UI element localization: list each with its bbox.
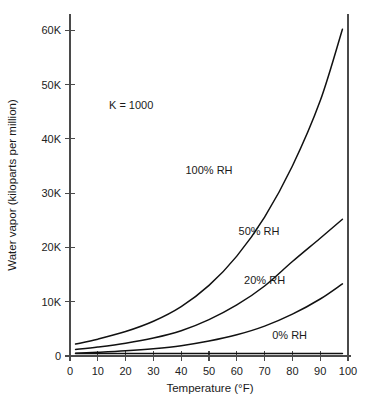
chart-annotations: K = 1000100% RH50% RH20% RH0% RH: [109, 99, 307, 341]
x-tick: 70: [258, 351, 270, 377]
y-tick-label: 40K: [41, 133, 61, 145]
x-tick-label: 50: [203, 365, 215, 377]
x-tick: 30: [147, 351, 159, 377]
x-tick-label: 60: [231, 365, 243, 377]
series-line-100-rh: [76, 29, 343, 344]
y-tick-label: 50K: [41, 79, 61, 91]
x-axis-ticks: 0102030405060708090100: [67, 351, 357, 377]
annotation-0-rh: 0% RH: [272, 329, 307, 341]
annotation-50-rh: 50% RH: [239, 225, 280, 237]
x-axis-title: Temperature (°F): [166, 382, 253, 394]
x-tick: 60: [231, 351, 243, 377]
x-tick-label: 100: [339, 365, 357, 377]
x-tick: 50: [203, 351, 215, 377]
chart-canvas: 010K20K30K40K50K60K 01020304050607080901…: [0, 0, 378, 403]
x-tick: 10: [92, 351, 104, 377]
x-tick-label: 0: [67, 365, 73, 377]
x-tick: 0: [67, 351, 73, 377]
x-tick-label: 90: [314, 365, 326, 377]
chart-figure: 010K20K30K40K50K60K 01020304050607080901…: [0, 0, 378, 403]
x-tick-label: 10: [92, 365, 104, 377]
x-tick: 20: [119, 351, 131, 377]
x-tick: 80: [286, 351, 298, 377]
series-lines: [76, 29, 343, 353]
y-tick-label: 0: [55, 350, 61, 362]
y-tick-label: 10K: [41, 296, 61, 308]
x-tick-label: 20: [119, 365, 131, 377]
x-tick-label: 80: [286, 365, 298, 377]
series-line-20-rh: [76, 284, 343, 353]
y-tick-label: 60K: [41, 24, 61, 36]
annotation-k-1000: K = 1000: [109, 99, 153, 111]
y-tick: 0: [55, 350, 75, 362]
x-tick-label: 40: [175, 365, 187, 377]
x-tick: 100: [339, 351, 357, 377]
annotation-100-rh: 100% RH: [185, 164, 232, 176]
x-tick: 90: [314, 351, 326, 377]
x-tick-label: 70: [258, 365, 270, 377]
y-axis-title: Water vapor (kiloparts per million): [6, 99, 18, 271]
axes: [70, 14, 351, 356]
x-tick-label: 30: [147, 365, 159, 377]
x-tick: 40: [175, 351, 187, 377]
y-tick-label: 20K: [41, 241, 61, 253]
y-tick-label: 30K: [41, 187, 61, 199]
annotation-20-rh: 20% RH: [244, 274, 285, 286]
